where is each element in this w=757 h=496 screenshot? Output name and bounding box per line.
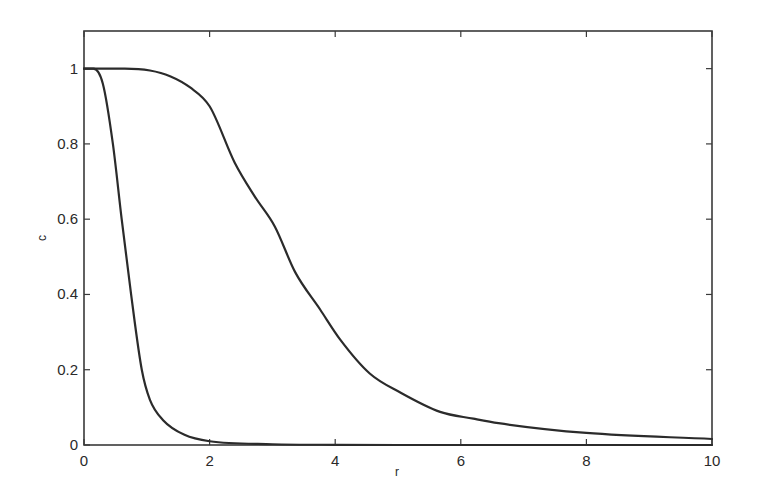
steep-profile-curve [84,69,712,445]
x-tick-label: 0 [80,452,88,469]
plot-frame [84,31,712,445]
axis-ticks [84,31,712,445]
line-chart: 0246810 00.20.40.60.81 r c [0,0,757,496]
x-tick-label: 8 [582,452,590,469]
axes-box [84,31,712,445]
y-tick-label: 0 [70,436,78,453]
x-axis-label: r [395,465,399,479]
y-tick-label: 0.2 [57,361,78,378]
x-tick-label: 4 [331,452,339,469]
y-tick-label: 1 [70,60,78,77]
y-tick-label: 0.6 [57,210,78,227]
x-tick-label: 10 [704,452,721,469]
y-tick-labels: 00.20.40.60.81 [57,60,78,453]
data-curves [84,69,712,445]
x-tick-label: 2 [205,452,213,469]
x-tick-labels: 0246810 [80,452,721,469]
x-tick-label: 6 [457,452,465,469]
y-tick-label: 0.8 [57,135,78,152]
y-tick-label: 0.4 [57,285,78,302]
broad-profile-curve [84,69,712,439]
y-axis-label: c [35,235,49,241]
